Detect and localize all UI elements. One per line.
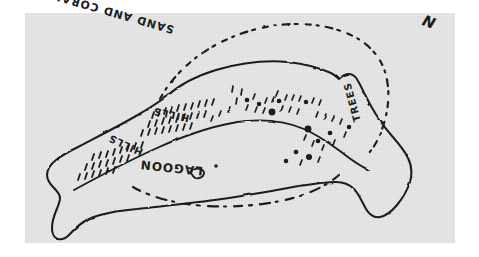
- island-outline: [47, 61, 411, 239]
- sketch-map-drawing: [0, 0, 479, 257]
- tree-stipple: [211, 86, 350, 165]
- scan-sheet: SAND AND CORAL LAGOON HILLS HILLS TREES …: [0, 0, 479, 257]
- outer-reef-dashed-arc-tail: [369, 132, 381, 153]
- lagoon-dashed-arc: [133, 175, 339, 207]
- inner-ridge-line: [74, 120, 369, 190]
- lagoon-dot: [214, 164, 218, 168]
